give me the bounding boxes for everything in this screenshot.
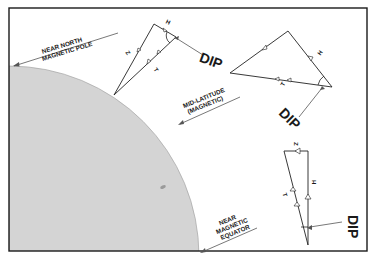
mid-arrow-t1 xyxy=(275,77,279,81)
mid-dip-angle-arc xyxy=(318,76,324,85)
equator-dip-pointer xyxy=(310,222,342,227)
equator-location: NEAR MAGNETIC EQUATOR xyxy=(200,209,257,253)
equator-vector-triangle xyxy=(284,151,308,245)
equator-arrow-h xyxy=(305,194,311,199)
pole-dip-angle-arc xyxy=(166,32,170,43)
equator-arrow-t1 xyxy=(290,187,296,191)
mid-vector-upper xyxy=(230,31,288,73)
svg-text:NEAR MAGNETIC EQUA: NEAR MAGNETIC EQUATOR xyxy=(212,209,253,243)
pole-label-dip: DIP xyxy=(197,49,224,72)
mid-arrow-h xyxy=(308,56,313,61)
mid-dip-pointer xyxy=(299,88,322,117)
svg-text:NEAR NORTH MAGNETIC POLE: NEAR NORTH MAGNETIC POLE xyxy=(39,33,93,62)
mid-label-dip: DIP xyxy=(276,105,304,133)
pole-location: NEAR NORTH MAGNETIC POLE xyxy=(13,33,118,67)
equator-label-z: Z xyxy=(293,142,299,146)
mid-pointer-arrowhead xyxy=(178,120,184,125)
pole-dip-pointer xyxy=(176,38,203,55)
pole-arrow-h xyxy=(163,28,167,32)
equator-label-dip: DIP xyxy=(345,215,361,238)
pole-arrow-t2 xyxy=(147,59,151,64)
equator-vector-t xyxy=(284,151,308,245)
earth-surface xyxy=(9,66,199,256)
pole-label-z: Z xyxy=(124,50,131,57)
mid-arrow-upper xyxy=(262,45,267,50)
equator-arrow-t2 xyxy=(294,202,300,206)
pole-label-h: H xyxy=(165,18,171,25)
equator-arrow-z xyxy=(295,148,300,154)
equator-label-h: H xyxy=(311,180,317,184)
pole-label-t: T xyxy=(152,67,159,74)
magnetic-dip-diagram: NEAR NORTH MAGNETIC POLE Z H T DIP MID-L… xyxy=(0,0,375,258)
pole-vector-triangle xyxy=(114,24,176,95)
mid-label-t: T xyxy=(279,81,286,87)
equator-label-t: T xyxy=(282,192,289,197)
mid-location: MID-LATITUDE (MAGNETIC) xyxy=(178,85,240,125)
mid-vector-triangle xyxy=(230,31,332,87)
pole-vector-t xyxy=(114,37,176,95)
pole-pointer-arrowhead xyxy=(13,62,20,67)
mid-label-h: H xyxy=(316,49,323,56)
